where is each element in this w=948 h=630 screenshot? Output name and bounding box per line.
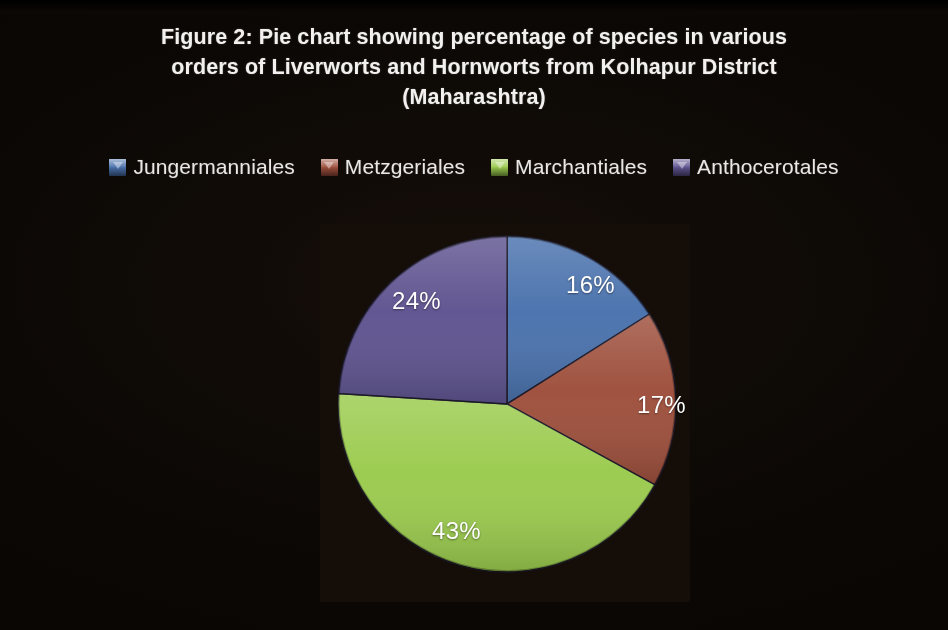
figure-title: Figure 2: Pie chart showing percentage o… bbox=[60, 22, 888, 112]
legend-swatch-icon bbox=[321, 159, 338, 176]
figure-title-line-1: Figure 2: Pie chart showing percentage o… bbox=[60, 22, 888, 52]
legend-label: Metzgeriales bbox=[345, 155, 465, 179]
legend-swatch-icon bbox=[673, 159, 690, 176]
legend-item-metzgeriales[interactable]: Metzgeriales bbox=[321, 155, 465, 179]
legend-item-marchantiales[interactable]: Marchantiales bbox=[491, 155, 647, 179]
pie-label-anthocerotales: 24% bbox=[392, 287, 441, 315]
figure-title-line-3: (Maharashtra) bbox=[60, 82, 888, 112]
figure-title-line-2: orders of Liverworts and Hornworts from … bbox=[60, 52, 888, 82]
legend-item-anthocerotales[interactable]: Anthocerotales bbox=[673, 155, 839, 179]
legend-swatch-icon bbox=[491, 159, 508, 176]
pie-slice-shading bbox=[338, 236, 507, 404]
pie-label-jungermanniales: 16% bbox=[566, 271, 615, 299]
pie-svg bbox=[338, 228, 676, 580]
legend-item-jungermanniales[interactable]: Jungermanniales bbox=[109, 155, 294, 179]
legend-swatch-icon bbox=[109, 159, 126, 176]
chart-legend: Jungermanniales Metzgeriales Marchantial… bbox=[0, 155, 948, 179]
pie-chart bbox=[338, 228, 676, 580]
legend-label: Marchantiales bbox=[515, 155, 647, 179]
pie-label-marchantiales: 43% bbox=[432, 517, 481, 545]
legend-label: Anthocerotales bbox=[697, 155, 839, 179]
pie-label-metzgeriales: 17% bbox=[637, 391, 686, 419]
figure-canvas: Figure 2: Pie chart showing percentage o… bbox=[0, 0, 948, 630]
legend-label: Jungermanniales bbox=[133, 155, 294, 179]
